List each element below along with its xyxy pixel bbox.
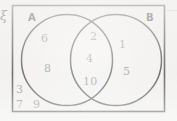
set-b-label: B — [146, 13, 154, 23]
element-b-only-1: 1 — [119, 39, 126, 50]
set-a-label: A — [28, 13, 36, 23]
element-a-only-6: 6 — [41, 33, 48, 44]
venn-diagram-figure: ξ A B 6 8 2 4 10 1 5 3 7 9 — [0, 0, 177, 121]
element-outside-9: 9 — [33, 99, 40, 110]
element-intersection-10: 10 — [83, 76, 97, 87]
element-a-only-8: 8 — [44, 63, 51, 74]
element-intersection-2: 2 — [90, 31, 97, 42]
element-b-only-5: 5 — [123, 66, 130, 77]
set-a-circle — [22, 15, 113, 106]
element-outside-3: 3 — [16, 84, 23, 95]
set-b-circle — [71, 15, 162, 106]
element-intersection-4: 4 — [86, 53, 93, 64]
element-outside-7: 7 — [16, 99, 23, 110]
universal-set-symbol: ξ — [0, 9, 7, 22]
